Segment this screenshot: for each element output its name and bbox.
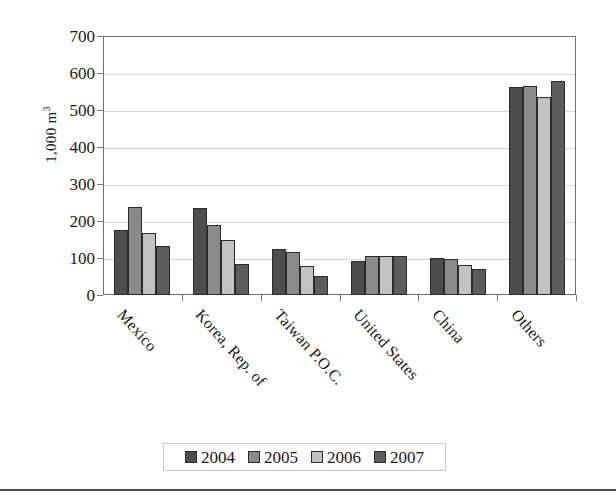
- legend: 2004200520062007: [163, 443, 446, 471]
- bar[interactable]: [472, 269, 486, 295]
- bar-group: [182, 36, 261, 295]
- legend-label: 2007: [390, 449, 424, 466]
- x-axis-category-label: Mexico: [113, 306, 160, 355]
- bar-chart-figure: 1,000 m3 0100200300400500600700 MexicoKo…: [0, 0, 616, 503]
- bar[interactable]: [351, 261, 365, 295]
- y-axis-tick-label: 500: [35, 102, 95, 119]
- legend-item[interactable]: 2005: [248, 449, 298, 466]
- legend-swatch-icon: [374, 451, 386, 463]
- y-axis-tick-label: 600: [35, 65, 95, 82]
- bar[interactable]: [272, 249, 286, 295]
- x-axis-tick-mark: [182, 295, 183, 301]
- bar[interactable]: [365, 256, 379, 295]
- bar[interactable]: [128, 207, 142, 295]
- x-axis-category-label: Taiwan P.O.C.: [271, 306, 348, 389]
- x-axis-tick-mark: [418, 295, 419, 301]
- bar-group: [340, 36, 419, 295]
- bar[interactable]: [193, 208, 207, 295]
- bar[interactable]: [523, 86, 537, 295]
- x-axis-tick-mark: [261, 295, 262, 301]
- bar[interactable]: [142, 233, 156, 295]
- bar[interactable]: [314, 276, 328, 295]
- y-axis-tick-label: 100: [35, 250, 95, 267]
- bar[interactable]: [221, 240, 235, 296]
- legend-label: 2006: [327, 449, 361, 466]
- bar-group: [497, 36, 576, 295]
- bar-group: [418, 36, 497, 295]
- x-axis-category-label: United States: [350, 306, 423, 384]
- bar[interactable]: [379, 256, 393, 295]
- legend-label: 2005: [264, 449, 298, 466]
- legend-swatch-icon: [311, 451, 323, 463]
- bar[interactable]: [537, 97, 551, 295]
- x-axis-category-label: Korea, Rep. of: [192, 306, 270, 390]
- x-axis-tick-mark: [576, 295, 577, 301]
- y-axis-tick-label: 400: [35, 139, 95, 156]
- legend-item[interactable]: 2004: [185, 449, 235, 466]
- y-axis-title: 1,000 m3: [41, 80, 60, 190]
- bar-group: [103, 36, 182, 295]
- legend-label: 2004: [201, 449, 235, 466]
- bar[interactable]: [430, 258, 444, 295]
- bar[interactable]: [458, 265, 472, 295]
- bottom-rule-divider: [0, 489, 616, 491]
- legend-swatch-icon: [248, 451, 260, 463]
- bar[interactable]: [444, 259, 458, 295]
- legend-item[interactable]: 2006: [311, 449, 361, 466]
- bar[interactable]: [393, 256, 407, 295]
- bar[interactable]: [114, 230, 128, 295]
- bar[interactable]: [286, 252, 300, 295]
- bar[interactable]: [300, 266, 314, 295]
- x-axis-category-label: China: [429, 306, 469, 347]
- bar-groups: [103, 36, 576, 295]
- x-axis-tick-mark: [497, 295, 498, 301]
- y-axis-tick-mark: [97, 295, 103, 296]
- bar[interactable]: [235, 264, 249, 295]
- bar[interactable]: [509, 87, 523, 295]
- bar[interactable]: [156, 246, 170, 295]
- x-axis-tick-mark: [340, 295, 341, 301]
- legend-swatch-icon: [185, 451, 197, 463]
- y-axis-tick-label: 300: [35, 176, 95, 193]
- bar[interactable]: [207, 225, 221, 295]
- y-axis-tick-label: 0: [35, 287, 95, 304]
- x-axis-category-label: Others: [507, 306, 550, 351]
- y-axis-tick-label: 700: [35, 28, 95, 45]
- bar-group: [261, 36, 340, 295]
- y-axis-tick-label: 200: [35, 213, 95, 230]
- bar[interactable]: [551, 81, 565, 295]
- legend-item[interactable]: 2007: [374, 449, 424, 466]
